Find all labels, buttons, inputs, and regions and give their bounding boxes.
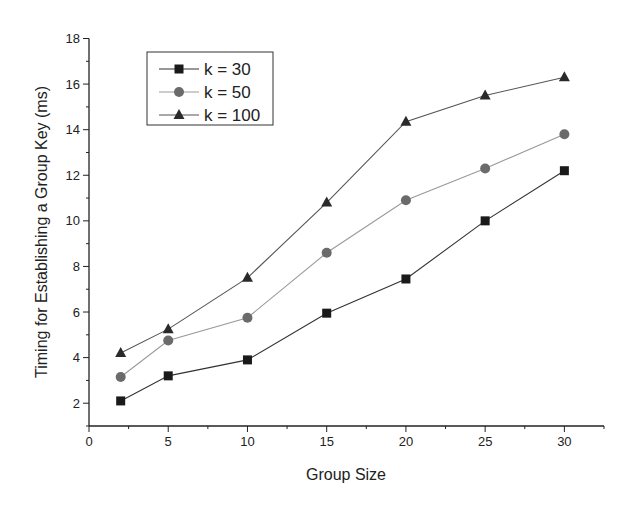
data-point [401, 274, 410, 283]
data-point [559, 71, 570, 81]
y-tick-label: 6 [73, 305, 80, 320]
axes: 05101520253024681012141618 [66, 31, 604, 449]
y-axis-title: Timing for Establishing a Group Key (ms) [33, 86, 50, 378]
data-point [163, 323, 174, 333]
x-tick-label: 15 [319, 434, 333, 449]
x-tick-label: 5 [165, 434, 172, 449]
x-tick-label: 25 [478, 434, 492, 449]
data-point [322, 248, 332, 258]
data-point [560, 166, 569, 175]
legend: k = 30k = 50k = 100 [147, 52, 273, 125]
series-line [121, 134, 565, 377]
y-tick-label: 10 [66, 213, 80, 228]
data-point [164, 371, 173, 380]
x-tick-label: 30 [557, 434, 571, 449]
data-point [242, 313, 252, 323]
y-tick-label: 4 [73, 350, 80, 365]
data-point [116, 372, 126, 382]
data-point [322, 309, 331, 318]
legend-label: k = 50 [204, 83, 251, 102]
data-point [559, 129, 569, 139]
data-point [481, 216, 490, 225]
data-point [115, 347, 126, 357]
legend-circle-icon [174, 87, 184, 97]
x-tick-label: 0 [85, 434, 92, 449]
data-point [243, 355, 252, 364]
data-point [163, 336, 173, 346]
x-tick-label: 10 [240, 434, 254, 449]
series-k30 [116, 166, 569, 405]
y-tick-label: 12 [66, 168, 80, 183]
data-point [116, 396, 125, 405]
legend-label: k = 100 [204, 106, 260, 125]
series-k50 [116, 129, 570, 382]
y-tick-label: 18 [66, 31, 80, 46]
x-axis-title: Group Size [306, 466, 386, 483]
data-point [401, 195, 411, 205]
y-tick-label: 2 [73, 396, 80, 411]
y-tick-label: 16 [66, 77, 80, 92]
data-point [242, 272, 253, 282]
y-tick-label: 14 [66, 122, 80, 137]
x-tick-label: 20 [399, 434, 413, 449]
y-tick-label: 8 [73, 259, 80, 274]
line-chart: 05101520253024681012141618 k = 30k = 50k… [0, 0, 632, 508]
data-point [480, 163, 490, 173]
legend-square-icon [175, 65, 184, 74]
legend-label: k = 30 [204, 60, 251, 79]
series-line [121, 171, 565, 401]
